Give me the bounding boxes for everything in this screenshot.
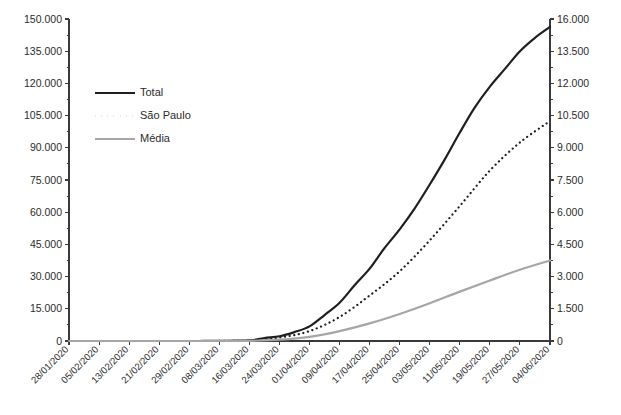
series-line-são-paulo: [69, 121, 550, 341]
y-axis-right-tick-label: 12.000: [557, 77, 589, 89]
y-axis-left-tick-label: 150.000: [24, 13, 62, 25]
y-axis-right-tick-label: 7.500: [557, 174, 583, 186]
y-axis-right-tick-label: 1.500: [557, 302, 583, 314]
y-axis-left-tick-label: 90.000: [30, 141, 62, 153]
series-line-total: [69, 27, 550, 341]
y-axis-right-tick-label: 3.000: [557, 270, 583, 282]
y-axis-left-tick-label: 75.000: [30, 174, 62, 186]
y-axis-left-tick-label: 105.000: [24, 109, 62, 121]
legend-label-são-paulo: São Paulo: [140, 109, 191, 121]
series-line-média: [69, 261, 550, 342]
y-axis-right-tick-label: 16.000: [557, 13, 589, 25]
y-axis-right-tick-label: 9.000: [557, 141, 583, 153]
y-axis-right-tick-label: 0: [557, 335, 563, 347]
y-axis-right-tick-label: 6.000: [557, 206, 583, 218]
y-axis-left-tick-label: 120.000: [24, 77, 62, 89]
y-axis-left-tick-label: 45.000: [30, 238, 62, 250]
y-axis-left-tick-label: 135.000: [24, 45, 62, 57]
y-axis-left-tick-label: 15.000: [30, 302, 62, 314]
y-axis-right-tick-label: 10.500: [557, 109, 589, 121]
plot-area: 015.00030.00045.00060.00075.00090.000105…: [24, 13, 589, 386]
y-axis-left-tick-label: 60.000: [30, 206, 62, 218]
line-chart: 015.00030.00045.00060.00075.00090.000105…: [0, 0, 621, 415]
y-axis-right-tick-label: 4.500: [557, 238, 583, 250]
legend-label-média: Média: [140, 132, 171, 144]
legend-label-total: Total: [140, 86, 163, 98]
y-axis-left-tick-label: 30.000: [30, 270, 62, 282]
y-axis-right-tick-label: 13.500: [557, 45, 589, 57]
chart-container: 015.00030.00045.00060.00075.00090.000105…: [0, 0, 621, 415]
